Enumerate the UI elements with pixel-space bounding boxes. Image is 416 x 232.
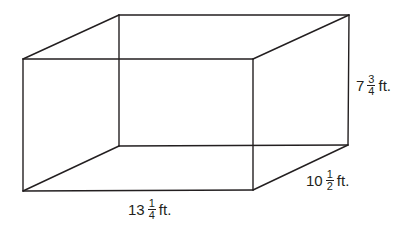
length-label: 13 1 4 ft. xyxy=(128,198,171,221)
edge-back-bottom xyxy=(119,145,348,146)
width-whole: 10 xyxy=(306,172,323,189)
edge-connect-top-left xyxy=(23,15,119,59)
edge-connect-bottom-left xyxy=(23,146,119,191)
height-fraction: 3 4 xyxy=(367,74,375,97)
height-whole: 7 xyxy=(356,77,364,94)
height-label: 7 3 4 ft. xyxy=(356,74,391,97)
length-fraction: 1 4 xyxy=(148,198,156,221)
width-label: 10 1 2 ft. xyxy=(306,169,349,192)
width-denominator: 2 xyxy=(326,181,334,192)
height-unit: ft. xyxy=(378,77,391,94)
edge-front-bottom xyxy=(23,190,253,191)
rectangular-prism xyxy=(0,0,416,232)
height-denominator: 4 xyxy=(367,86,375,97)
edge-connect-top-right xyxy=(253,15,349,59)
edge-back-right xyxy=(348,15,349,145)
length-whole: 13 xyxy=(128,201,145,218)
length-denominator: 4 xyxy=(148,210,156,221)
length-unit: ft. xyxy=(159,201,172,218)
width-unit: ft. xyxy=(337,172,350,189)
width-fraction: 1 2 xyxy=(326,169,334,192)
